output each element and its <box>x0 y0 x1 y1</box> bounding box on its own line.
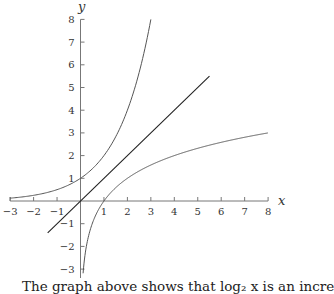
x-tick-label: 8 <box>265 206 271 217</box>
y-tick-label: 2 <box>68 150 74 161</box>
x-tick-label: −3 <box>3 206 18 217</box>
x-tick-label: 6 <box>218 206 224 217</box>
y-tick-label: −3 <box>60 264 75 275</box>
x-tick-label: 7 <box>241 206 247 217</box>
x-tick-label: 5 <box>195 206 201 217</box>
y-tick-label: 5 <box>68 82 74 93</box>
y-axis-label: y <box>77 0 86 14</box>
x-tick-label: −2 <box>26 206 41 217</box>
function-graph: −3−2−112345678−3−2−112345678 x y <box>0 0 291 278</box>
plotted-curves <box>10 19 268 273</box>
y-tick-label: −1 <box>60 218 75 229</box>
x-tick-label: 3 <box>148 206 154 217</box>
y-tick-label: −2 <box>60 241 75 252</box>
x-tick-label: 2 <box>124 206 130 217</box>
x-tick-label: 4 <box>171 206 177 217</box>
y-tick-label: 4 <box>68 105 74 116</box>
tick-labels: −3−2−112345678−3−2−112345678 <box>3 14 272 275</box>
x-tick-label: 1 <box>101 206 107 217</box>
x-tick-label: −1 <box>50 206 65 217</box>
y-tick-label: 6 <box>68 59 74 70</box>
y-tick-label: 8 <box>68 14 74 25</box>
y-tick-label: 3 <box>68 127 74 138</box>
y-tick-label: 7 <box>68 37 74 48</box>
caption-text: The graph above shows that log₂ x is an … <box>22 278 334 294</box>
x-axis-label: x <box>278 193 286 208</box>
axes <box>10 19 268 278</box>
logarithm-curve <box>83 133 268 273</box>
